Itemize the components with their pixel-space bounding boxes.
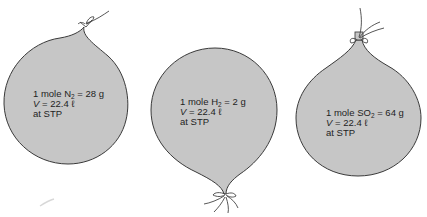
balloon-so2: [296, 8, 421, 176]
balloon-h2: [151, 48, 277, 213]
knot-icon: [350, 8, 384, 43]
conditions-line: at STP: [326, 128, 404, 138]
knot-icon: [78, 11, 109, 27]
balloon-so2-label: 1 mole SO2 = 64 g V = 22.4 ℓ at STP: [326, 108, 404, 138]
knot-icon: [204, 193, 238, 213]
balloon-n2-label: 1 mole N2 = 28 g V = 22.4 ℓ at STP: [33, 89, 104, 119]
conditions-line: at STP: [33, 109, 104, 119]
smudge-mark: [40, 199, 54, 206]
balloon-h2-label: 1 mole H2 = 2 g V = 22.4 ℓ at STP: [180, 97, 246, 127]
conditions-line: at STP: [180, 117, 246, 127]
